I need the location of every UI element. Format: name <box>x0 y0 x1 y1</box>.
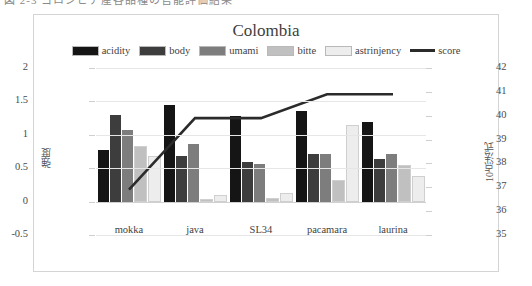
gridline <box>96 235 426 236</box>
legend-item-astrinjency[interactable]: astrinjency <box>325 45 401 56</box>
gridline <box>96 101 426 102</box>
y-axis-right-tick-mark <box>426 235 432 236</box>
y-axis-right-tick-mark <box>426 92 432 93</box>
legend-label: body <box>169 45 190 56</box>
y-axis-right-tick-mark <box>426 211 432 212</box>
y-axis-right-tick-label: 40 <box>496 109 532 120</box>
gridline <box>96 168 426 169</box>
chart-legend: aciditybodyumamibitteastrinjencyscore <box>34 45 498 56</box>
y-axis-right-tick-label: 38 <box>496 156 532 167</box>
y-axis-left-tick-label: 1 <box>0 128 28 139</box>
y-axis-right-tick-mark <box>426 163 432 164</box>
score-line-path[interactable] <box>129 94 393 189</box>
y-axis-left-tick-mark <box>89 68 95 69</box>
y-axis-right-title: 10点法式 <box>482 142 497 182</box>
legend-label: acidity <box>102 45 131 56</box>
legend-item-acidity[interactable]: acidity <box>72 45 131 56</box>
legend-swatch-icon <box>267 46 294 56</box>
y-axis-left-tick-mark <box>89 101 95 102</box>
y-axis-left-tick-mark <box>89 168 95 169</box>
y-axis-right-tick-label: 42 <box>496 61 532 72</box>
y-axis-right-tick-mark <box>426 140 432 141</box>
legend-label: score <box>438 45 460 56</box>
legend-item-body[interactable]: body <box>139 45 190 56</box>
y-axis-left-tick-mark <box>89 202 95 203</box>
gridline <box>96 202 426 203</box>
plot-area: mokkajavaSL34pacamaralaurina 21.510.50-0… <box>96 68 426 235</box>
legend-item-umami[interactable]: umami <box>199 45 258 56</box>
gridline <box>96 135 426 136</box>
cropped-text-fragment: 図 2-3 コロンビア産各品種の官能評価結果 <box>4 0 233 7</box>
y-axis-left-tick-label: -0.5 <box>0 228 28 239</box>
y-axis-left-title: 強度 <box>39 148 54 168</box>
y-axis-left-tick-mark <box>89 235 95 236</box>
y-axis-right-tick-label: 35 <box>496 228 532 239</box>
legend-swatch-icon <box>199 46 226 56</box>
legend-item-score[interactable]: score <box>410 45 460 56</box>
cropped-text-strip: 図 2-3 コロンビア産各品種の官能評価結果 <box>0 0 532 12</box>
legend-line-icon <box>410 49 435 52</box>
y-axis-right-tick-label: 41 <box>496 85 532 96</box>
score-line-series <box>96 68 426 235</box>
y-axis-right-tick-label: 36 <box>496 204 532 215</box>
y-axis-right-tick-label: 37 <box>496 180 532 191</box>
y-axis-left-tick-label: 1.5 <box>0 94 28 105</box>
legend-item-bitte[interactable]: bitte <box>267 45 316 56</box>
chart-container: Colombia aciditybodyumamibitteastrinjenc… <box>33 14 499 272</box>
legend-label: umami <box>229 45 258 56</box>
y-axis-left-tick-label: 2 <box>0 61 28 72</box>
y-axis-left-tick-label: 0.5 <box>0 161 28 172</box>
y-axis-right-tick-label: 39 <box>496 133 532 144</box>
y-axis-right-tick-mark <box>426 116 432 117</box>
chart-title: Colombia <box>34 21 498 41</box>
plot-wrapper: 強度 10点法式 mokkajavaSL34pacamaralaurina 21… <box>34 56 500 262</box>
y-axis-right-tick-mark <box>426 187 432 188</box>
y-axis-left-tick-label: 0 <box>0 195 28 206</box>
gridline <box>96 68 426 69</box>
y-axis-right-tick-mark <box>426 68 432 69</box>
y-axis-left-tick-mark <box>89 135 95 136</box>
legend-swatch-icon <box>139 46 166 56</box>
legend-label: bitte <box>297 45 316 56</box>
legend-swatch-icon <box>325 46 352 56</box>
legend-swatch-icon <box>72 46 99 56</box>
legend-label: astrinjency <box>355 45 401 56</box>
